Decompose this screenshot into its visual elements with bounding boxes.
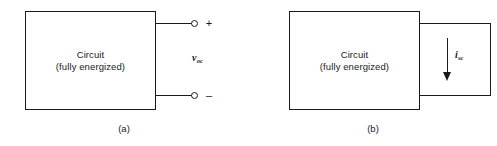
voltage-subscript: oc: [197, 57, 203, 64]
polarity-minus-label: –: [203, 90, 215, 101]
circuit-block-b: Circuit (fully energized): [289, 11, 420, 110]
polarity-plus-label: +: [203, 18, 215, 29]
circuit-block-a-label: Circuit (fully energized): [26, 48, 155, 73]
voltage-symbol: v: [192, 52, 196, 63]
circuit-block-a: Circuit (fully energized): [25, 11, 156, 110]
panel-b-short-circuit: Circuit (fully energized) isc (b): [249, 0, 497, 146]
terminal-positive-icon: [191, 20, 198, 27]
wire-a-top: [155, 23, 193, 24]
caption-b: (b): [249, 123, 497, 134]
short-circuit-current-label: isc: [455, 50, 463, 61]
terminal-negative-icon: [191, 92, 198, 99]
panel-a-open-circuit: Circuit (fully energized) + – voc (a): [0, 0, 248, 146]
current-arrow-shaft: [447, 38, 448, 74]
current-arrow-head-icon: [443, 72, 451, 81]
figure-container: Circuit (fully energized) + – voc (a) Ci…: [0, 0, 497, 146]
open-circuit-voltage-label: voc: [192, 53, 203, 64]
wire-b-bottom: [419, 95, 491, 96]
wire-b-top: [419, 23, 491, 24]
caption-a: (a): [0, 123, 248, 134]
wire-a-bottom: [155, 95, 193, 96]
current-subscript: sc: [458, 54, 463, 61]
wire-b-short-link: [490, 23, 491, 95]
circuit-block-b-label: Circuit (fully energized): [290, 48, 419, 73]
